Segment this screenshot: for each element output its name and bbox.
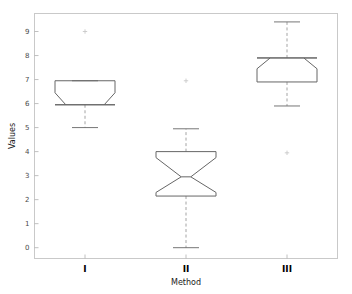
y-tick-label: 4 xyxy=(25,148,30,156)
x-axis-title: Method xyxy=(171,278,201,287)
y-tick-label: 2 xyxy=(25,196,29,204)
x-tick-label-I: I xyxy=(83,264,86,274)
y-tick-label: 1 xyxy=(25,220,29,228)
y-tick-label: 8 xyxy=(25,52,29,60)
y-axis-title: Values xyxy=(8,123,17,149)
y-tick-label: 3 xyxy=(25,172,29,180)
y-tick-label: 0 xyxy=(25,244,29,252)
boxplot-figure: 0123456789 IIIIII Values Method xyxy=(0,0,352,294)
plot-canvas: 0123456789 IIIIII Values Method xyxy=(0,0,352,294)
y-tick-label: 5 xyxy=(25,124,29,132)
y-tick-label: 9 xyxy=(25,28,29,36)
x-tick-label-II: II xyxy=(183,264,190,274)
y-tick-label: 7 xyxy=(25,76,29,84)
x-tick-label-III: III xyxy=(282,264,292,274)
figure-background xyxy=(0,0,352,294)
y-tick-label: 6 xyxy=(25,100,30,108)
